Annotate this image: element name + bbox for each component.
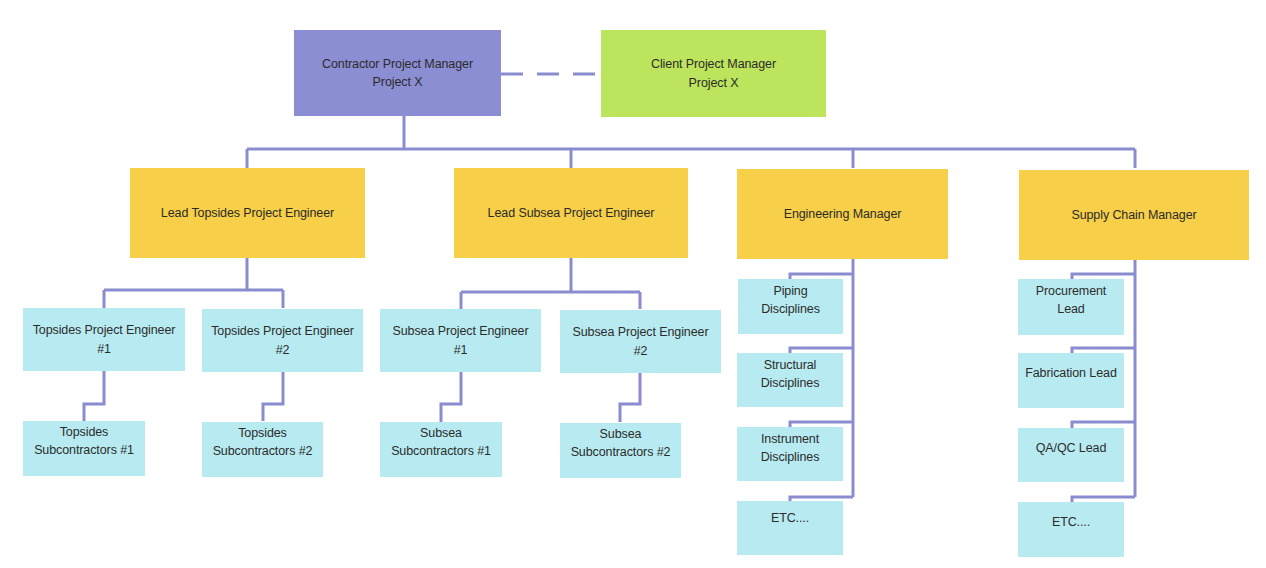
client-project-manager-box[interactable]: Client Project Manager Project X — [601, 30, 826, 117]
subcontractor-label: Subsea Subcontractors #1 — [391, 424, 491, 460]
supply-chain-etc-box[interactable]: ETC.... — [1018, 502, 1124, 557]
lead-topsides-project-engineer-box[interactable]: Lead Topsides Project Engineer — [130, 168, 365, 258]
qa-qc-lead-box[interactable]: QA/QC Lead — [1018, 428, 1124, 482]
lead-label: Supply Chain Manager — [1071, 206, 1196, 224]
lead-subsea-project-engineer-box[interactable]: Lead Subsea Project Engineer — [454, 168, 688, 258]
structural-disciplines-box[interactable]: Structural Disciplines — [737, 353, 843, 407]
supply-item-label: QA/QC Lead — [1036, 439, 1107, 457]
discipline-label: Structural Disciplines — [761, 356, 820, 392]
client-project-manager-label: Client Project Manager Project X — [651, 55, 776, 91]
supply-item-label: Fabrication Lead — [1025, 364, 1117, 382]
subsea-subcontractors-2-box[interactable]: Subsea Subcontractors #2 — [560, 423, 681, 478]
subsea-subcontractors-1-box[interactable]: Subsea Subcontractors #1 — [380, 422, 502, 477]
subcontractor-label: Topsides Subcontractors #2 — [213, 424, 313, 460]
instrument-disciplines-box[interactable]: Instrument Disciplines — [737, 427, 843, 481]
topsides-subcontractors-1-box[interactable]: Topsides Subcontractors #1 — [23, 421, 145, 476]
topsides-project-engineer-1-box[interactable]: Topsides Project Engineer #1 — [23, 308, 185, 371]
engineer-label: Topsides Project Engineer #2 — [211, 322, 354, 358]
supply-item-label: Procurement Lead — [1036, 282, 1106, 318]
subcontractor-label: Subsea Subcontractors #2 — [571, 425, 671, 461]
engineer-label: Subsea Project Engineer #1 — [393, 322, 529, 358]
subsea-project-engineer-1-box[interactable]: Subsea Project Engineer #1 — [380, 309, 541, 372]
engineering-manager-box[interactable]: Engineering Manager — [737, 169, 948, 259]
engineering-etc-box[interactable]: ETC.... — [737, 501, 843, 555]
discipline-label: ETC.... — [771, 509, 809, 527]
piping-disciplines-box[interactable]: Piping Disciplines — [738, 279, 843, 334]
contractor-project-manager-box[interactable]: Contractor Project Manager Project X — [294, 30, 501, 116]
topsides-subcontractors-2-box[interactable]: Topsides Subcontractors #2 — [202, 422, 323, 477]
contractor-project-manager-label: Contractor Project Manager Project X — [322, 55, 473, 91]
lead-label: Engineering Manager — [784, 205, 902, 223]
discipline-label: Piping Disciplines — [761, 282, 820, 318]
lead-label: Lead Subsea Project Engineer — [488, 204, 655, 222]
supply-item-label: ETC.... — [1052, 513, 1090, 531]
fabrication-lead-box[interactable]: Fabrication Lead — [1018, 353, 1124, 408]
lead-label: Lead Topsides Project Engineer — [161, 204, 334, 222]
discipline-label: Instrument Disciplines — [761, 430, 820, 466]
subsea-project-engineer-2-box[interactable]: Subsea Project Engineer #2 — [560, 310, 721, 373]
procurement-lead-box[interactable]: Procurement Lead — [1018, 279, 1124, 335]
topsides-project-engineer-2-box[interactable]: Topsides Project Engineer #2 — [202, 309, 363, 372]
engineer-label: Subsea Project Engineer #2 — [573, 323, 709, 359]
org-chart: Contractor Project Manager Project X Cli… — [0, 0, 1266, 568]
subcontractor-label: Topsides Subcontractors #1 — [34, 423, 134, 459]
engineer-label: Topsides Project Engineer #1 — [33, 321, 176, 357]
supply-chain-manager-box[interactable]: Supply Chain Manager — [1019, 170, 1249, 260]
